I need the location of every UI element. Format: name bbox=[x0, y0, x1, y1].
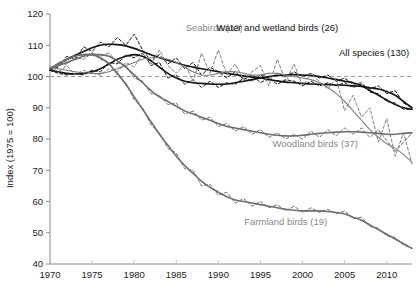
y-tick-label: 80 bbox=[32, 133, 43, 144]
x-tick-label: 1995 bbox=[250, 269, 271, 280]
y-tick-label: 110 bbox=[28, 40, 43, 51]
annotation-label: Farmland birds (19) bbox=[244, 216, 327, 227]
y-tick-label: 60 bbox=[32, 196, 43, 207]
y-tick-label: 50 bbox=[32, 227, 43, 238]
y-tick-label: 100 bbox=[27, 71, 43, 82]
x-tick-label: 1985 bbox=[166, 269, 187, 280]
chart-canvas: 405060708090100110120 197019751980198519… bbox=[0, 0, 419, 298]
bird-population-index-chart: 405060708090100110120 197019751980198519… bbox=[0, 0, 419, 298]
y-tick-label: 70 bbox=[32, 165, 43, 176]
x-tick-label: 2005 bbox=[334, 269, 355, 280]
y-tick-label: 90 bbox=[32, 102, 43, 113]
x-tick-label: 2010 bbox=[376, 269, 397, 280]
annotation-label: All species (130) bbox=[339, 47, 409, 58]
y-axis-title: Index (1975 = 100) bbox=[4, 108, 15, 188]
y-tick-label: 40 bbox=[32, 258, 43, 269]
chart-background bbox=[0, 0, 419, 298]
annotation-label: Woodland birds (37) bbox=[272, 138, 357, 149]
x-tick-label: 2000 bbox=[292, 269, 313, 280]
x-tick-label: 1970 bbox=[39, 269, 60, 280]
x-tick-label: 1980 bbox=[124, 269, 145, 280]
y-tick-label: 120 bbox=[27, 8, 43, 19]
annotation-label: Water and wetland birds (26) bbox=[216, 22, 338, 33]
x-tick-label: 1975 bbox=[82, 269, 103, 280]
x-tick-label: 1990 bbox=[208, 269, 229, 280]
